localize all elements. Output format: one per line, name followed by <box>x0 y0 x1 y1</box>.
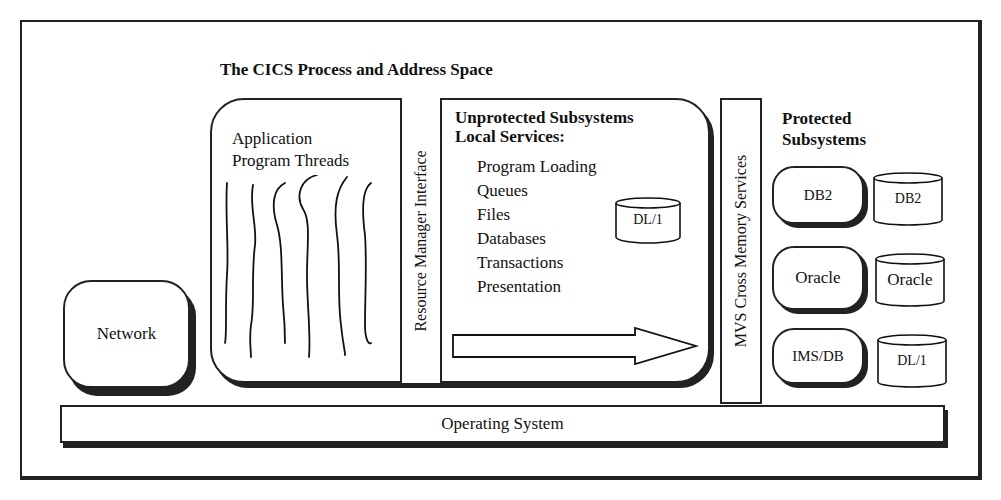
service-item: Queues <box>477 179 596 203</box>
service-item: Transactions <box>477 251 596 275</box>
db2-cylinder-icon: DB2 <box>872 171 944 227</box>
operating-system-bar: Operating System <box>60 405 945 443</box>
operating-system-label: Operating System <box>441 414 563 434</box>
service-item: Program Loading <box>477 155 596 179</box>
local-services-list: Program Loading Queues Files Databases T… <box>477 155 596 299</box>
application-label-line2: Program Threads <box>232 150 349 172</box>
db2-database-label: DB2 <box>872 191 944 207</box>
protected-title-line1: Protected <box>782 108 866 129</box>
flow-arrow-icon <box>450 326 700 366</box>
local-services-title: Local Services: <box>455 127 634 146</box>
program-threads-icon <box>215 175 395 365</box>
oracle-database-label: Oracle <box>874 270 946 290</box>
dl1-label: DL/1 <box>614 212 682 228</box>
protected-title-line2: Subsystems <box>782 129 866 150</box>
imsdb-subsystem-label: IMS/DB <box>792 348 844 365</box>
db2-subsystem-box: DB2 <box>772 166 864 224</box>
application-label-line1: Application <box>232 128 349 150</box>
dl1-cylinder-icon: DL/1 <box>614 196 682 244</box>
network-label: Network <box>97 324 156 344</box>
mvs-label: MVS Cross Memory Services <box>732 155 750 347</box>
protected-heading: Protected Subsystems <box>782 108 866 150</box>
imsdb-subsystem-box: IMS/DB <box>772 328 864 384</box>
oracle-subsystem-label: Oracle <box>795 268 840 288</box>
oracle-subsystem-box: Oracle <box>772 246 864 310</box>
mvs-cross-memory-bar: MVS Cross Memory Services <box>720 98 762 404</box>
rmi-label: Resource Manager Interface <box>412 150 430 331</box>
resource-manager-interface-bar: Resource Manager Interface <box>400 98 442 383</box>
unprotected-heading: Unprotected Subsystems Local Services: <box>455 108 634 146</box>
service-item: Databases <box>477 227 596 251</box>
db2-subsystem-label: DB2 <box>804 187 832 204</box>
network-box: Network <box>63 280 190 388</box>
service-item: Files <box>477 203 596 227</box>
oracle-cylinder-icon: Oracle <box>874 252 946 308</box>
unprotected-subsystems-title: Unprotected Subsystems <box>455 108 634 127</box>
diagram-title: The CICS Process and Address Space <box>220 60 493 80</box>
service-item: Presentation <box>477 275 596 299</box>
application-threads-label: Application Program Threads <box>232 128 349 172</box>
dl1-protected-label: DL/1 <box>876 353 948 369</box>
dl1-protected-cylinder-icon: DL/1 <box>876 333 948 389</box>
